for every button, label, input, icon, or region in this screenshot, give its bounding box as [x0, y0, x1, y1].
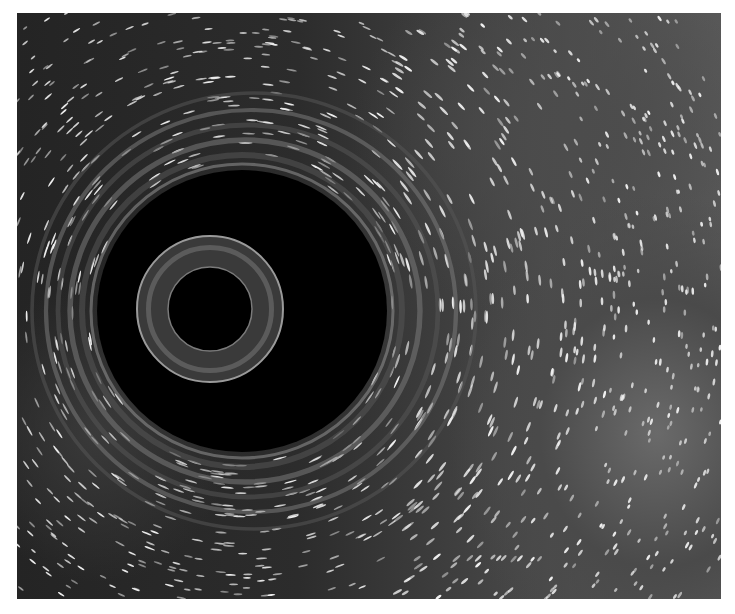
black-hole-scene	[17, 13, 721, 599]
inner-ring-hole	[168, 267, 252, 351]
black-hole-image	[17, 13, 721, 599]
